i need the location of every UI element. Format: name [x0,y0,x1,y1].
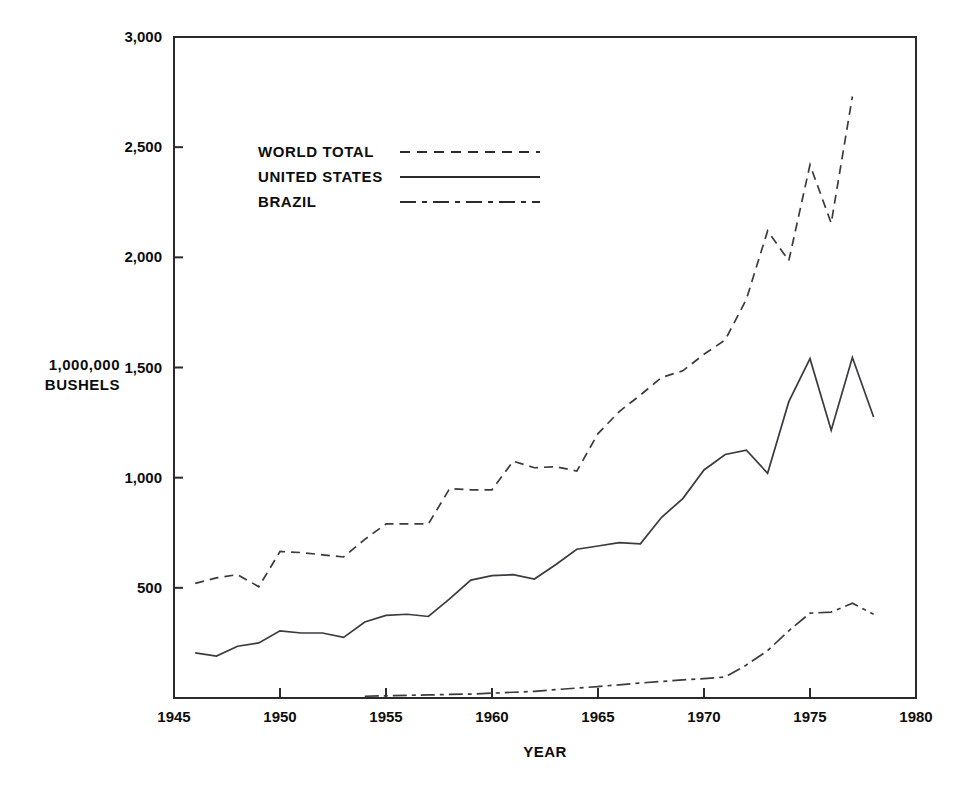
x-tick-label: 1955 [369,708,402,725]
y-tick-label: 3,000 [124,28,162,45]
chart-legend: WORLD TOTALUNITED STATESBRAZIL [258,143,540,210]
y-axis-tick-labels: 5001,0001,5002,0002,5003,000 [124,28,162,596]
chart-figure: 5001,0001,5002,0002,5003,000 19451950195… [0,0,964,787]
y-tick-label: 500 [137,579,162,596]
y-tick-label: 1,000 [124,469,162,486]
line-chart: 5001,0001,5002,0002,5003,000 19451950195… [0,0,964,787]
legend-label-brazil: BRAZIL [258,193,317,210]
x-tick-label: 1965 [581,708,614,725]
y-axis-title-line1: 1,000,000 [49,356,120,373]
series-line-united-states [195,358,873,657]
x-tick-label: 1975 [793,708,826,725]
x-tick-label: 1980 [899,708,932,725]
y-tick-label: 2,500 [124,138,162,155]
legend-label-united-states: UNITED STATES [258,168,383,185]
y-tick-label: 2,000 [124,248,162,265]
x-axis-title: YEAR [523,743,567,760]
x-tick-label: 1950 [263,708,296,725]
legend-label-world-total: WORLD TOTAL [258,143,374,160]
plot-frame [174,37,916,698]
data-series-group [195,96,873,696]
x-axis-ticks [280,688,810,698]
y-tick-label: 1,500 [124,359,162,376]
y-axis-title-line2: BUSHELS [45,376,120,393]
series-line-brazil [365,603,874,696]
x-tick-label: 1945 [157,708,190,725]
x-tick-label: 1960 [475,708,508,725]
x-axis-tick-labels: 19451950195519601965197019751980 [157,708,932,725]
y-axis-ticks [174,37,183,588]
x-tick-label: 1970 [687,708,720,725]
